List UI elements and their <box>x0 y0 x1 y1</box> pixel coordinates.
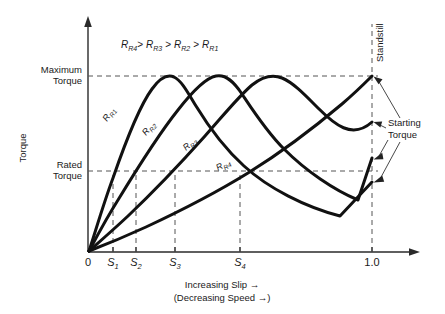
x-tick-label-s1: S1 <box>107 256 119 271</box>
arrowhead-rr2-endpoint <box>374 153 384 160</box>
y-axis-arrowhead <box>84 16 92 27</box>
maximum-torque-label-line2: Torque <box>53 75 82 86</box>
x-axis-title-line1: Increasing Slip → <box>185 279 259 290</box>
rated-torque-label-line1: Rated <box>57 159 82 170</box>
rotor-resistance-inequality: RR4>RR3>RR2>RR1 <box>121 39 218 52</box>
x-axis-title-group: Increasing Slip → (Decreasing Speed →) <box>174 279 271 303</box>
axes-group <box>84 16 420 256</box>
x-tick-label-s2: S2 <box>130 256 142 271</box>
x-tick-label-s3: S3 <box>169 256 181 271</box>
torque-slip-chart-figure: RR1 RR2 RR3 RR4 RR4>RR3>RR2>RR1 <box>0 0 445 314</box>
curve-labels-group: RR1 RR2 RR3 RR4 <box>100 105 233 174</box>
maximum-torque-label: Maximum Torque <box>41 64 82 86</box>
leader-line-to-rr2-endpoint <box>379 140 388 156</box>
curve-label-rr2: RR2 <box>140 119 159 138</box>
arrowhead-rr3-endpoint <box>374 122 383 128</box>
maximum-torque-label-line1: Maximum <box>41 64 82 75</box>
standstill-annotation-label: Standstill <box>374 23 385 62</box>
leader-line-to-rr1-endpoint <box>380 142 400 179</box>
curve-label-rr4: RR4 <box>214 157 233 175</box>
arrowhead-rr1-endpoint <box>374 176 385 183</box>
y-axis-title: Torque <box>17 133 28 162</box>
x-tick-labels-group: 0 S1 S2 S3 S4 1.0 <box>85 256 380 271</box>
arrowhead-rr4-endpoint <box>374 77 383 85</box>
rated-torque-label-line2: Torque <box>53 170 82 181</box>
x-axis-title-line2: (Decreasing Speed →) <box>174 292 271 303</box>
leader-line-to-rr4-endpoint <box>378 80 400 118</box>
starting-torque-label-line1: Starting <box>388 117 421 128</box>
x-tick-label-1.0: 1.0 <box>364 256 379 268</box>
chart-canvas: RR1 RR2 RR3 RR4 RR4>RR3>RR2>RR1 <box>0 0 445 314</box>
starting-torque-label-line2: Torque <box>388 129 417 140</box>
x-tick-marks <box>113 247 372 252</box>
x-tick-label-s4: S4 <box>234 256 246 271</box>
rated-torque-label: Rated Torque <box>53 159 82 181</box>
x-tick-label-0: 0 <box>85 256 91 268</box>
x-axis-arrowhead <box>409 248 420 256</box>
starting-torque-annotation: Starting Torque <box>374 77 421 183</box>
slip-dashed-lines-group <box>113 24 372 252</box>
curve-label-rr1: RR1 <box>100 105 118 124</box>
